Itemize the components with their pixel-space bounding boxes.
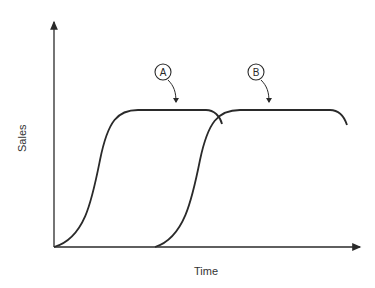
label-b-text: B [253, 67, 260, 78]
label-b-arrow [261, 80, 269, 102]
y-axis-label: Sales [16, 124, 28, 152]
x-axis-label: Time [194, 265, 218, 277]
label-a-text: A [160, 67, 167, 78]
chart-canvas: A B [0, 0, 375, 288]
curve-b [155, 110, 347, 247]
label-a-arrow [168, 80, 176, 102]
